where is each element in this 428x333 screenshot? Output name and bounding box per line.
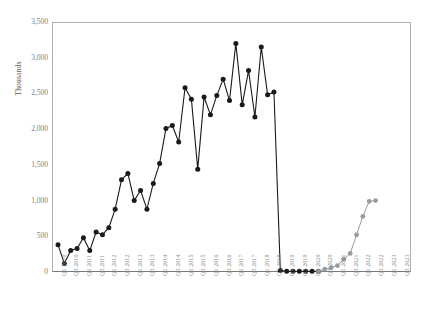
x-tick-label: Q3 2015 <box>200 254 206 276</box>
x-tick-label: Q3 2010 <box>73 254 79 276</box>
x-tick-label: Q3 2018 <box>276 254 282 276</box>
x-tick-label: Q1 2018 <box>264 254 270 276</box>
x-tick-label: Q1 2012 <box>111 254 117 276</box>
x-axis-tick-labels: Q1 2010Q3 2010Q1 2011Q3 2011Q1 2012Q3 20… <box>0 0 428 333</box>
x-tick-label: Q1 2019 <box>289 254 295 276</box>
x-tick-label: Q3 2020 <box>327 254 333 276</box>
x-tick-label: Q1 2013 <box>137 254 143 276</box>
x-tick-label: Q1 2022 <box>365 254 371 276</box>
x-tick-label: Q3 2013 <box>149 254 155 276</box>
x-tick-label: Q1 2016 <box>213 254 219 276</box>
x-tick-label: Q1 2017 <box>238 254 244 276</box>
x-tick-label: Q1 2023 <box>391 254 397 276</box>
x-tick-label: Q1 2014 <box>162 254 168 276</box>
x-tick-label: Q3 2023 <box>404 254 410 276</box>
x-tick-label: Q1 2020 <box>315 254 321 276</box>
x-tick-label: Q1 2011 <box>86 255 92 276</box>
x-tick-label: Q3 2014 <box>175 254 181 276</box>
chart-container: Thousands 05001,0001,5002,0002,5003,0003… <box>0 0 428 333</box>
x-tick-label: Q3 2022 <box>378 254 384 276</box>
x-tick-label: Q3 2017 <box>251 254 257 276</box>
x-tick-label: Q3 2011 <box>99 255 105 276</box>
x-tick-label: Q1 2021 <box>340 254 346 276</box>
x-tick-label: Q3 2012 <box>124 254 130 276</box>
x-tick-label: Q3 2021 <box>353 254 359 276</box>
x-tick-label: Q1 2015 <box>188 254 194 276</box>
x-tick-label: Q3 2019 <box>302 254 308 276</box>
x-tick-label: Q1 2010 <box>61 254 67 276</box>
x-tick-label: Q3 2016 <box>226 254 232 276</box>
